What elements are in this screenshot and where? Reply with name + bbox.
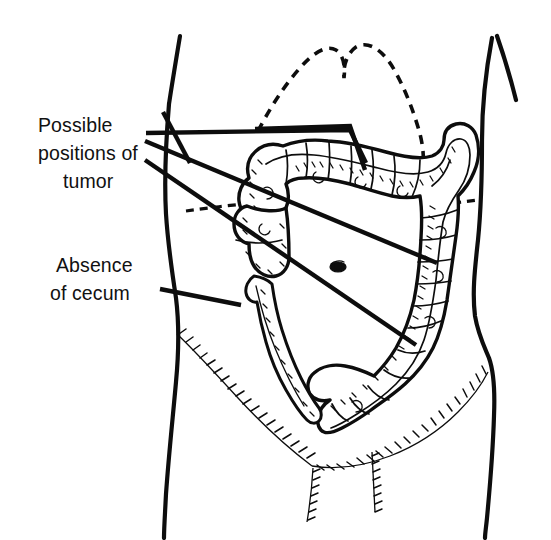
navel-center [334,263,342,269]
cecum-label-line-2: of cecum [50,282,130,304]
medical-illustration-figure: Possible positions of tumor Absence of c… [0,0,551,540]
tumor-label-line-3: tumor [63,170,114,192]
tumor-label-line-2: positions of [38,142,138,164]
tumor-label-line-1: Possible [38,114,113,136]
cecum-label-line-1: Absence [56,254,133,276]
anatomy-illustration-canvas: Possible positions of tumor Absence of c… [0,0,551,540]
